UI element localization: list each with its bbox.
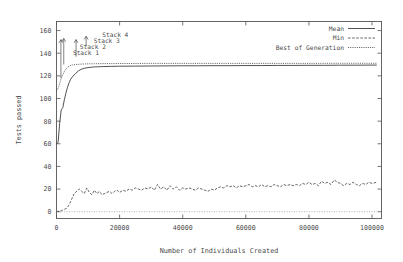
- chart-legend: MeanMinBest of Generation: [276, 25, 375, 51]
- x-tick-label: 0: [55, 224, 59, 232]
- y-axis-tick-labels: 020406080100120140160: [40, 27, 52, 216]
- x-tick-label: 100000: [360, 224, 384, 232]
- y-tick-label: 0: [48, 208, 52, 216]
- x-axis-ticks: [57, 22, 373, 219]
- x-tick-label: 80000: [299, 224, 319, 232]
- stack-annotation-label: Stack 1: [73, 49, 99, 56]
- data-series-layer: [57, 63, 377, 211]
- series-line-min: [57, 180, 377, 212]
- y-tick-label: 40: [44, 163, 52, 171]
- stack-annotation-label: Stack 4: [102, 31, 128, 38]
- y-tick-label: 80: [44, 118, 52, 126]
- x-tick-label: 40000: [173, 224, 193, 232]
- chart-container: 020000400006000080000100000 020406080100…: [0, 0, 403, 262]
- y-tick-label: 60: [44, 140, 52, 148]
- y-tick-label: 160: [40, 27, 52, 35]
- y-tick-label: 100: [40, 95, 52, 103]
- legend-entry-best-of-generation-label: Best of Generation: [276, 44, 344, 51]
- y-axis-ticks: [57, 31, 382, 212]
- y-tick-label: 20: [44, 185, 52, 193]
- x-tick-label: 60000: [236, 224, 256, 232]
- x-axis-tick-labels: 020000400006000080000100000: [55, 224, 384, 232]
- series-line-best-of-generation: [57, 63, 377, 90]
- legend-entry-min-label: Min: [333, 34, 345, 41]
- x-axis-title: Number of Individuals Created: [160, 247, 279, 255]
- y-axis-title: Tests passed: [15, 95, 23, 144]
- stack-annotations: Stack 1Stack 2Stack 3Stack 4: [59, 31, 129, 78]
- plot-frame: [57, 22, 382, 219]
- x-tick-label: 20000: [110, 224, 130, 232]
- series-line-mean: [57, 65, 377, 144]
- line-chart: 020000400006000080000100000 020406080100…: [0, 0, 403, 262]
- legend-entry-mean-label: Mean: [329, 25, 344, 32]
- y-tick-label: 140: [40, 50, 52, 58]
- y-tick-label: 120: [40, 72, 52, 80]
